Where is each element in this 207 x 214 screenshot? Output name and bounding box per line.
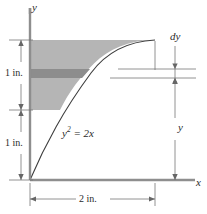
- dimension-label-upper-1in: 1 in.: [5, 68, 23, 78]
- arrow-dy-up: [172, 78, 177, 84]
- arrow-up-top: [18, 40, 23, 46]
- x-axis-label: x: [196, 177, 201, 188]
- dy-dimension-label: dy: [170, 31, 180, 42]
- figure-canvas: y x dy y y2 = 2x 1 in. 1 in. 2 in.: [0, 0, 207, 214]
- arrow-dy-down: [172, 64, 177, 70]
- arrow-right-bottom: [149, 196, 155, 201]
- y-axis-label: y: [32, 2, 37, 13]
- dimension-label-bottom-2in: 2 in.: [79, 194, 97, 204]
- arrow-up-mid2: [18, 110, 23, 116]
- arrow-down-mid1: [18, 104, 23, 110]
- curve-equation-label: y2 = 2x: [62, 126, 94, 139]
- dimension-label-lower-1in: 1 in.: [5, 138, 23, 148]
- arrow-left-bottom: [30, 196, 36, 201]
- curve-eq-rest: = 2x: [71, 127, 94, 139]
- right-y-dimension-group: [110, 69, 196, 180]
- arrow-down-bot: [18, 174, 23, 180]
- shaded-area-group: [30, 40, 155, 110]
- dy-dimension-group: [155, 41, 175, 78]
- y-dimension-label: y: [178, 122, 183, 133]
